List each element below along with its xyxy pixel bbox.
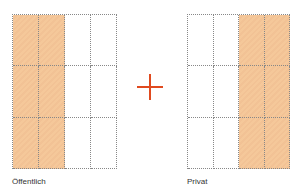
grid-cell-empty <box>91 15 117 66</box>
grid-cell-empty <box>65 15 91 66</box>
grid-cell-filled <box>265 118 291 169</box>
grid-cell-empty <box>214 15 240 66</box>
grid-cell-empty <box>91 118 117 169</box>
grid-cell-empty <box>188 66 214 117</box>
grid-cell-filled <box>13 66 39 117</box>
public-label: Öffentlich <box>12 177 46 186</box>
grid-cell-empty <box>65 66 91 117</box>
grid-cell-empty <box>214 118 240 169</box>
private-label: Privat <box>187 177 207 186</box>
private-grid <box>187 14 290 169</box>
grid-cell-empty <box>188 15 214 66</box>
grid-cell-empty <box>188 118 214 169</box>
grid-cell-filled <box>39 66 65 117</box>
public-grid <box>12 14 117 169</box>
grid-cell-empty <box>65 118 91 169</box>
grid-cell-filled <box>239 66 265 117</box>
grid-cell-empty <box>91 66 117 117</box>
plus-icon <box>137 74 163 100</box>
grid-cell-filled <box>239 118 265 169</box>
grid-cell-filled <box>39 118 65 169</box>
grid-cell-filled <box>239 15 265 66</box>
grid-cell-filled <box>39 15 65 66</box>
grid-cell-filled <box>265 15 291 66</box>
grid-cell-filled <box>13 15 39 66</box>
grid-cell-empty <box>214 66 240 117</box>
plus-vertical-bar <box>149 74 151 100</box>
grid-cell-filled <box>13 118 39 169</box>
grid-cell-filled <box>265 66 291 117</box>
